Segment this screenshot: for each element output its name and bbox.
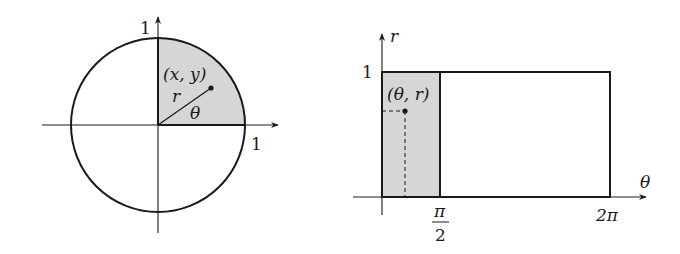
x-tick-label: 1	[251, 134, 262, 154]
radius-label: r	[172, 86, 181, 106]
theta-axis-label: θ	[640, 172, 650, 192]
polar-coordinates-diagram: 1 1 (x, y) r θ r θ 1 (θ, r) π 2 2π	[0, 0, 680, 254]
r-axis-label: r	[390, 26, 399, 46]
polar-rectangle-panel: r θ 1 (θ, r) π 2 2π	[353, 26, 650, 245]
half-pi-numerator: π	[433, 201, 446, 221]
two-pi-label: 2π	[595, 205, 619, 225]
y-tick-label: 1	[140, 18, 151, 38]
point-label: (x, y)	[163, 64, 206, 84]
point-xy	[208, 85, 213, 90]
angle-label: θ	[190, 103, 200, 123]
point-label: (θ, r)	[387, 84, 429, 104]
half-pi-denominator: 2	[435, 225, 446, 245]
r-tick-label: 1	[362, 62, 373, 82]
point-theta-r	[402, 108, 407, 113]
unit-circle-panel: 1 1 (x, y) r θ	[42, 17, 278, 233]
